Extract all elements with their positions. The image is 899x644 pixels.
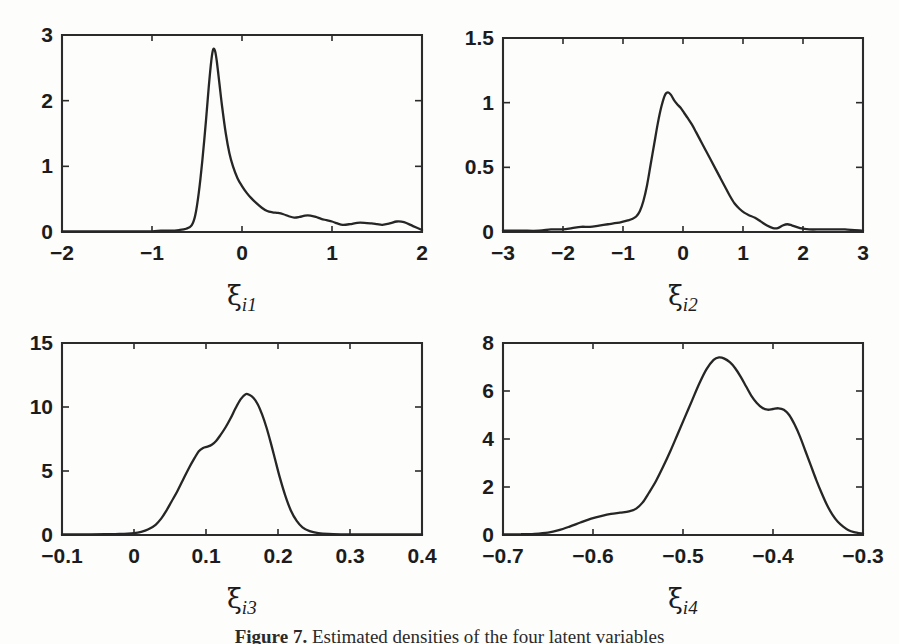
x-tick-label: −1 bbox=[611, 241, 635, 264]
y-tick-label: 0 bbox=[41, 523, 53, 546]
x-tick-label: 1 bbox=[326, 241, 338, 264]
figure-caption: Figure 7. Estimated densities of the fou… bbox=[0, 626, 899, 644]
x-tick-label: 3 bbox=[857, 241, 869, 264]
axis-box bbox=[62, 35, 422, 232]
y-tick-label: 0 bbox=[482, 220, 494, 243]
axis-label-xi-i1: ξi1 bbox=[182, 280, 302, 316]
x-tick-label: 0.4 bbox=[407, 544, 437, 567]
y-tick-label: 0 bbox=[482, 523, 494, 546]
x-tick-label: 2 bbox=[797, 241, 809, 264]
x-tick-label: −0.3 bbox=[842, 544, 883, 567]
density-curve bbox=[503, 92, 863, 230]
axis-label-xi-i2: ξi2 bbox=[623, 280, 743, 316]
y-tick-label: 15 bbox=[30, 331, 54, 354]
x-tick-label: 1 bbox=[737, 241, 749, 264]
panel-xi-i3: −0.100.10.20.30.4051015 bbox=[4, 333, 434, 581]
x-tick-label: 0 bbox=[128, 544, 140, 567]
y-tick-label: 1 bbox=[482, 91, 494, 114]
y-tick-label: 0 bbox=[41, 220, 53, 243]
axis-box bbox=[503, 343, 863, 535]
figure-container: −2−10120123 ξi1 −3−2−1012300.511.5 ξi2 −… bbox=[0, 0, 899, 644]
x-tick-label: −1 bbox=[140, 241, 164, 264]
y-tick-label: 10 bbox=[30, 395, 53, 418]
x-tick-label: −0.4 bbox=[752, 544, 794, 567]
density-curve bbox=[503, 357, 863, 534]
axis-box bbox=[62, 343, 422, 535]
y-tick-label: 4 bbox=[482, 427, 494, 450]
x-tick-label: 0.1 bbox=[191, 544, 221, 567]
x-tick-label: 2 bbox=[416, 241, 428, 264]
x-tick-label: 0.3 bbox=[335, 544, 364, 567]
y-tick-label: 1.5 bbox=[465, 26, 495, 49]
y-tick-label: 5 bbox=[41, 459, 53, 482]
y-tick-label: 2 bbox=[482, 475, 494, 498]
y-tick-label: 2 bbox=[41, 89, 53, 112]
density-curve bbox=[62, 49, 422, 232]
axis-label-xi-i4: ξi4 bbox=[623, 583, 743, 619]
x-tick-label: −2 bbox=[50, 241, 74, 264]
x-tick-label: 0 bbox=[236, 241, 248, 264]
x-tick-label: −3 bbox=[491, 241, 515, 264]
x-tick-label: −2 bbox=[551, 241, 575, 264]
y-tick-label: 6 bbox=[482, 379, 494, 402]
y-tick-label: 3 bbox=[41, 23, 53, 46]
panel-xi-i4: −0.7−0.6−0.5−0.4−0.302468 bbox=[445, 333, 875, 581]
y-tick-label: 1 bbox=[41, 154, 53, 177]
y-tick-label: 0.5 bbox=[465, 155, 495, 178]
density-curve bbox=[62, 394, 422, 535]
x-tick-label: −0.1 bbox=[41, 544, 83, 567]
x-tick-label: −0.6 bbox=[572, 544, 613, 567]
y-tick-label: 8 bbox=[482, 331, 494, 354]
axis-label-xi-i3: ξi3 bbox=[182, 583, 302, 619]
axis-box bbox=[503, 38, 863, 232]
x-tick-label: −0.7 bbox=[482, 544, 523, 567]
x-tick-label: 0.2 bbox=[263, 544, 292, 567]
x-tick-label: 0 bbox=[677, 241, 689, 264]
panel-xi-i2: −3−2−1012300.511.5 bbox=[445, 28, 875, 278]
panel-xi-i1: −2−10120123 bbox=[4, 25, 434, 278]
x-tick-label: −0.5 bbox=[662, 544, 704, 567]
